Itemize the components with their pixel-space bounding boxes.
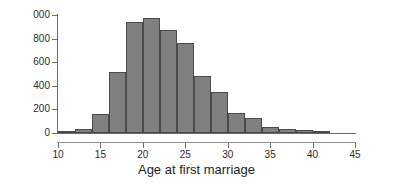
x-axis-tick-label: 15 [85, 150, 115, 160]
histogram-bar [296, 130, 313, 133]
histogram-figure: 0200400600800000 1015202530354045 Age at… [0, 0, 393, 188]
x-axis-tick-label: 30 [213, 150, 243, 160]
histogram-bar [245, 118, 262, 133]
x-axis-tick [355, 143, 356, 148]
y-axis-tick-label: 600 [33, 57, 50, 67]
y-axis-tick-label: 0 [44, 128, 50, 138]
x-axis-tick-label: 40 [298, 150, 328, 160]
histogram-bar [177, 43, 194, 133]
x-axis-tick [143, 143, 144, 148]
x-axis-line [57, 133, 356, 134]
y-axis-tick-label: 800 [33, 34, 50, 44]
x-axis-tick-label: 45 [340, 150, 370, 160]
histogram-bar [211, 92, 228, 133]
x-axis-baseline-rule [57, 142, 356, 143]
histogram-bar [126, 22, 143, 133]
x-axis-tick-label: 20 [128, 150, 158, 160]
histogram-bar [160, 30, 177, 133]
x-axis-tick-label: 25 [170, 150, 200, 160]
histogram-bar [194, 76, 211, 133]
y-axis-tick [52, 62, 57, 63]
x-axis-tick [100, 143, 101, 148]
y-axis-tick [52, 39, 57, 40]
y-axis-tick [52, 86, 57, 87]
histogram-bar [228, 113, 245, 133]
histogram-bar [109, 72, 126, 133]
y-axis-tick-label: 000 [33, 10, 50, 20]
histogram-bars [58, 15, 355, 133]
y-axis-tick [52, 133, 57, 134]
x-axis-tick [313, 143, 314, 148]
x-axis-tick-label: 10 [43, 150, 73, 160]
plot-area [58, 15, 355, 133]
y-axis-tick [52, 15, 57, 16]
histogram-bar [279, 129, 296, 133]
histogram-bar [75, 129, 92, 133]
histogram-bar [262, 127, 279, 133]
x-axis-title: Age at first marriage [0, 163, 393, 176]
x-axis-tick-label: 35 [255, 150, 285, 160]
y-axis-tick-label: 200 [33, 104, 50, 114]
histogram-bar [313, 131, 330, 133]
x-axis-tick [228, 143, 229, 148]
x-axis-tick [58, 143, 59, 148]
y-axis-tick-label: 400 [33, 81, 50, 91]
histogram-bar [58, 131, 75, 133]
x-axis-tick [270, 143, 271, 148]
y-axis-tick [52, 109, 57, 110]
x-axis-tick [185, 143, 186, 148]
histogram-bar [143, 18, 160, 133]
histogram-bar [92, 114, 109, 133]
